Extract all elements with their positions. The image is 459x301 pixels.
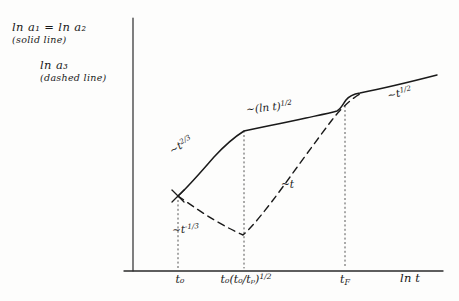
x-tick-label-tmid-exponent: 1/2 xyxy=(259,272,271,281)
annotation-dashed-linear: ~t xyxy=(281,178,294,190)
legend-entry-solid: ln a₁ = ln a₂ (solid line) xyxy=(12,20,87,45)
tick-droplines-group xyxy=(178,106,345,268)
x-tick-label-tmid-base: t₀(t₀/tₚ) xyxy=(221,273,260,286)
annotation-lnt12-exponent: 1/2 xyxy=(280,98,292,108)
legend-dashed-symbol: ln a₃ xyxy=(40,58,107,72)
x-tick-label-t0: t₀ xyxy=(160,273,200,286)
annotation-dashed-t-minus-third: ~t-1/3 xyxy=(172,221,200,235)
legend-dashed-style-note: (dashed line) xyxy=(40,72,107,83)
sketch-canvas xyxy=(0,0,459,301)
annotation-t12-exponent: 1/2 xyxy=(399,83,412,94)
annotation-tm13-text: ~t xyxy=(172,223,186,236)
annotation-t-text: ~t xyxy=(281,178,294,190)
annotation-tm13-exponent: -1/3 xyxy=(185,221,199,231)
legend-solid-symbol: ln a₁ = ln a₂ xyxy=(12,20,87,34)
x-tick-label-tF-sub: F xyxy=(344,278,350,287)
figure-root: ln a₁ = ln a₂ (solid line) ln a₃ (dashed… xyxy=(0,0,459,301)
x-tick-label-tmid: t₀(t₀/tₚ)1/2 xyxy=(198,272,294,286)
curve-dashed-ln-a3 xyxy=(178,94,360,235)
legend-entry-dashed: ln a₃ (dashed line) xyxy=(40,58,107,83)
x-tick-label-tF: tF xyxy=(327,273,363,287)
legend-solid-style-note: (solid line) xyxy=(12,34,87,45)
x-axis-label: ln t xyxy=(400,271,420,285)
